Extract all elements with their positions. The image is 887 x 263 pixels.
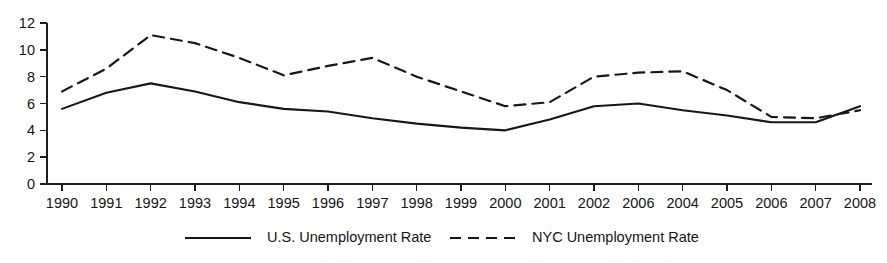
x-tick-label-9: 1999 [445,195,477,211]
legend-label-us: U.S. Unemployment Rate [267,229,431,245]
y-tick-label-0: 0 [27,176,35,192]
series-line-nyc [62,35,860,118]
y-tick-label-2: 2 [27,149,35,165]
x-tick-label-6: 1996 [312,195,344,211]
x-tick-label-11: 2001 [534,195,566,211]
x-tick-label-4: 1994 [223,195,255,211]
y-axis-group: 024681012 [19,15,47,192]
unemployment-line-chart: 024681012 199019911992199319941995199619… [0,0,887,263]
y-tick-label-4: 4 [27,122,35,138]
y-tick-group [40,23,47,184]
x-tick-label-8: 1998 [401,195,433,211]
x-tick-label-15: 2005 [711,195,743,211]
chart-canvas: 024681012 199019911992199319941995199619… [0,0,887,263]
y-tick-label-group: 024681012 [19,15,35,192]
x-tick-label-10: 2000 [489,195,521,211]
data-series-group [62,35,860,130]
y-tick-label-10: 10 [19,42,35,58]
x-axis-group: 1990199119921993199419951996199719981999… [46,184,876,211]
x-tick-group [62,184,860,191]
x-tick-label-18: 2008 [844,195,876,211]
legend-label-nyc: NYC Unemployment Rate [532,229,699,245]
x-tick-label-group: 1990199119921993199419951996199719981999… [46,195,876,211]
x-tick-label-7: 1997 [356,195,388,211]
series-line-us [62,83,860,130]
x-tick-label-5: 1995 [268,195,300,211]
x-tick-label-2: 1992 [135,195,167,211]
chart-legend: U.S. Unemployment RateNYC Unemployment R… [185,229,699,245]
x-tick-label-12: 2002 [578,195,610,211]
y-tick-label-6: 6 [27,96,35,112]
y-tick-label-12: 12 [19,15,35,31]
y-tick-label-8: 8 [27,69,35,85]
x-tick-label-16: 2006 [755,195,787,211]
x-tick-label-1: 1991 [90,195,122,211]
x-tick-label-3: 1993 [179,195,211,211]
x-tick-label-0: 1990 [46,195,78,211]
x-tick-label-14: 2004 [667,195,699,211]
x-tick-label-13: 2006 [622,195,654,211]
x-tick-label-17: 2007 [800,195,832,211]
